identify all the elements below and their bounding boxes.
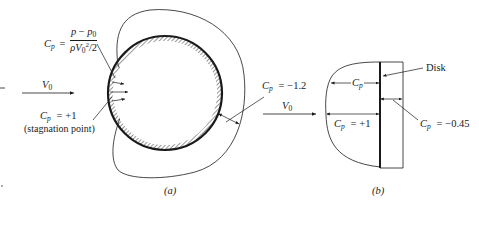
cp-symbol: C: [44, 38, 51, 49]
back-pressure-rect: [380, 62, 403, 168]
caption-b: (b): [372, 186, 384, 197]
stagnation-note: (stagnation point): [24, 124, 95, 134]
cp-side-label: Cp =−1.2: [262, 81, 306, 93]
freestream-label-b: V0: [282, 101, 292, 113]
equals-sign: =: [59, 38, 65, 49]
stagnation-label: Cp =+1: [40, 111, 76, 123]
formula-leader: [97, 44, 115, 78]
freestream-label-a: V0: [42, 80, 52, 92]
cp-back-label: Cp =−0.45: [420, 119, 470, 131]
cp-front-label: Cp: [352, 78, 363, 90]
disk-label: Disk: [426, 63, 446, 74]
cp-stagnation-label-b: Cp =+1: [334, 119, 370, 131]
cp-back-leader: [393, 100, 418, 120]
cp-side-leader: [226, 97, 264, 122]
formula-numerator: p − p0: [70, 27, 97, 41]
caption-a: (a): [164, 186, 176, 197]
cylinder-inner: [113, 41, 217, 145]
edge-dot: [1, 185, 2, 186]
cp-subscript: p: [51, 42, 55, 51]
formula-fraction: p − p0 ρV02/2: [70, 27, 97, 54]
formula-denominator: ρV02/2: [70, 41, 97, 55]
cp-formula: Cp = p − p0 ρV02/2: [44, 36, 97, 54]
